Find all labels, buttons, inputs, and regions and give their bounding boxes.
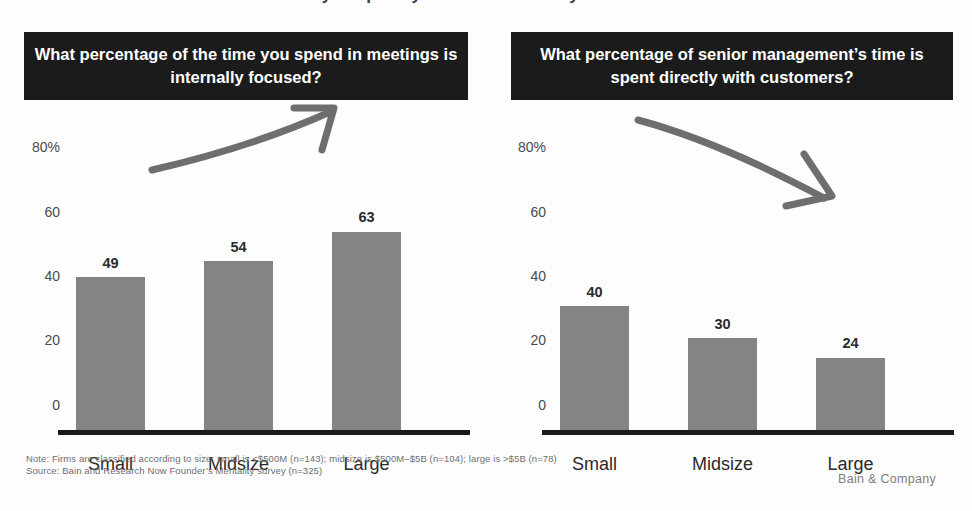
x-axis-baseline-left: [58, 430, 470, 435]
chart-panel-internal-focus: What percentage of the time you spend in…: [14, 30, 484, 435]
bar-large-right[interactable]: [816, 358, 885, 435]
bar-group-midsize-left[interactable]: 54 Midsize: [204, 108, 273, 435]
bar-value-large-left: 63: [332, 209, 401, 225]
brand-logo-text: Bain & Company: [838, 472, 936, 486]
chart-panel-customer-time: What percentage of senior management’s t…: [500, 30, 964, 435]
bar-series-right: 40 Small 30 Midsize 24 Large: [500, 108, 964, 435]
bar-small-right[interactable]: [560, 306, 629, 435]
bar-small-left[interactable]: [76, 277, 145, 435]
bar-value-small-left: 49: [76, 255, 145, 271]
bar-midsize-left[interactable]: [204, 261, 273, 435]
footnote-source: Source: Bain and Research Now Founder’s …: [26, 465, 322, 476]
slide-canvas: How do you spend your time? Internally o…: [0, 0, 972, 511]
bar-value-small-right: 40: [560, 284, 629, 300]
footer: Note: Firms are classified according to …: [0, 448, 972, 511]
bar-series-left: 49 Small 54 Midsize 63 Large: [14, 108, 484, 435]
bar-large-left[interactable]: [332, 232, 401, 435]
clipped-title-text: How do you spend your time? Internally o…: [168, 0, 828, 5]
chart-title-text-left: What percentage of the time you spend in…: [34, 43, 458, 89]
bar-group-large-right[interactable]: 24 Large: [816, 108, 885, 435]
footnote-note: Note: Firms are classified according to …: [26, 453, 557, 464]
bar-group-small-right[interactable]: 40 Small: [560, 108, 629, 435]
chart-title-banner-right: What percentage of senior management’s t…: [511, 32, 953, 100]
bar-group-large-left[interactable]: 63 Large: [332, 108, 401, 435]
plot-area-right: 80% 60 40 20 0 40 Small 30 Midsize: [500, 108, 964, 435]
bar-value-midsize-left: 54: [204, 239, 273, 255]
x-axis-baseline-right: [542, 430, 954, 435]
bar-group-small-left[interactable]: 49 Small: [76, 108, 145, 435]
clipped-title-strip: How do you spend your time? Internally o…: [0, 0, 972, 11]
bar-group-midsize-right[interactable]: 30 Midsize: [688, 108, 757, 435]
bar-value-midsize-right: 30: [688, 316, 757, 332]
bar-value-large-right: 24: [816, 335, 885, 351]
chart-title-text-right: What percentage of senior management’s t…: [521, 43, 943, 89]
plot-area-left: 80% 60 40 20 0 49 Small 54 Midsize: [14, 108, 484, 435]
bar-midsize-right[interactable]: [688, 338, 757, 435]
chart-title-banner-left: What percentage of the time you spend in…: [24, 32, 468, 100]
